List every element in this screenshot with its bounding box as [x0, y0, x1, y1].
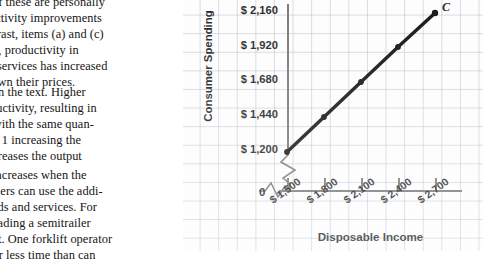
text-line: ure 1 in the text. Higher	[0, 84, 181, 100]
paragraph-1: each of these are personally productivit…	[0, 0, 181, 90]
text-line: dered services has increased	[0, 58, 181, 74]
text-line: e workers can use the addi-	[0, 183, 181, 199]
text-column: each of these are personally productivit…	[0, 0, 183, 264]
chart-panel: $ 2,160 $ 1,920 $ 1,680 $ 1,440 $ 1,200 …	[183, 0, 483, 251]
text-line: Figure 1 increasing the	[0, 132, 181, 148]
data-point	[432, 10, 438, 16]
screenshot-root: each of these are personally productivit…	[0, 0, 483, 264]
text-line: forklift. One forklift operator	[0, 231, 181, 247]
text-line-subscript: K2 increases the output	[0, 148, 181, 167]
text-line: In fact, productivity in	[0, 42, 181, 58]
text-line: productivity improvements	[0, 10, 181, 26]
paragraph-2: ure 1 in the text. Higher r productivity…	[0, 84, 181, 263]
text-line: n contrast, items (a) and (c)	[0, 26, 181, 42]
text-line: each of these are personally	[0, 0, 181, 10]
text-line: r productivity, resulting in	[0, 100, 181, 116]
series-label-c: C	[442, 0, 450, 15]
data-point	[358, 79, 364, 85]
text-line: d unloading a semitrailer	[0, 215, 181, 231]
data-point	[284, 149, 290, 155]
data-point	[395, 44, 401, 50]
data-series-line	[183, 0, 483, 251]
text-line: it in far less time than can	[0, 247, 181, 263]
text-line: uced with the same quan-	[0, 116, 181, 132]
text-line: re goods and services. For	[0, 199, 181, 215]
data-point	[321, 114, 327, 120]
text-line: ivity increases when the	[0, 167, 181, 183]
